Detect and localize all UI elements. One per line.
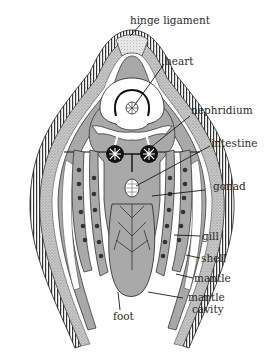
bivalve-cross-section-diagram: hinge ligament heart nephridium intestin… — [0, 0, 264, 360]
label-mantle: mantle — [194, 272, 231, 284]
gill-right — [156, 150, 192, 276]
label-gonad: gonad — [213, 180, 246, 192]
gill-left — [72, 150, 108, 276]
hinge-ligament-shape — [116, 35, 148, 56]
label-mantle-cavity-line2: cavity — [192, 303, 224, 315]
label-mantle-cavity-line1: mantle — [188, 291, 225, 303]
label-heart: heart — [165, 55, 194, 67]
label-hinge-ligament: hinge ligament — [130, 14, 211, 26]
heart — [126, 102, 138, 114]
label-shell: shell — [201, 252, 227, 264]
label-gill: gill — [202, 230, 219, 242]
label-nephridium: nephridium — [191, 104, 253, 116]
label-intestine: intestine — [211, 137, 258, 149]
label-foot: foot — [113, 310, 135, 322]
